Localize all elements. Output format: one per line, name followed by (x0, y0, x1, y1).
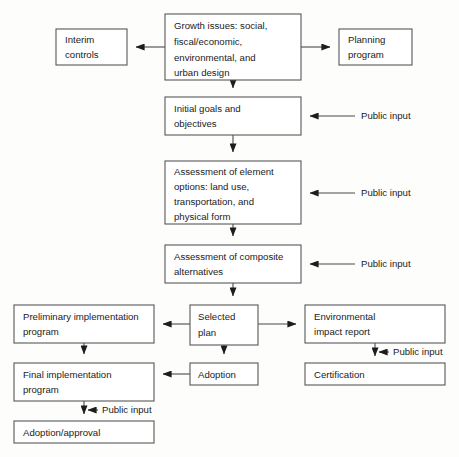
node-preliminary-implementation[interactable]: Preliminary implementation program (14, 305, 154, 343)
node-adoption-line-0: Adoption (198, 369, 236, 380)
node-planning-program-line-0: Planning (348, 34, 385, 45)
node-selected-plan-line-1: plan (198, 327, 216, 338)
node-adoption-approval-line-0: Adoption/approval (23, 427, 100, 438)
node-environmental-impact-report-line-1: impact report (314, 326, 370, 337)
node-assessment-elements[interactable]: Assessment of element options: land use,… (165, 161, 301, 224)
node-assessment-composite-line-0: Assessment of composite (174, 251, 283, 262)
node-planning-program[interactable]: Planning program (339, 29, 412, 65)
node-initial-goals-line-0: Initial goals and (174, 103, 241, 114)
node-assessment-elements-line-1: options: land use, (174, 181, 249, 192)
node-adoption[interactable]: Adoption (190, 363, 258, 385)
node-initial-goals-line-1: objectives (174, 118, 217, 129)
node-assessment-elements-line-2: transportation, and (174, 196, 254, 207)
annotation-public-input-elements: Public input (361, 187, 411, 198)
planning-process-flowchart: Growth issues: social, fiscal/economic, … (0, 0, 459, 457)
node-assessment-composite[interactable]: Assessment of composite alternatives (165, 245, 301, 283)
node-certification[interactable]: Certification (305, 363, 445, 385)
annotation-public-input-final: Public input (102, 404, 152, 415)
node-growth-issues-line-0: Growth issues: social, (174, 20, 267, 31)
node-growth-issues[interactable]: Growth issues: social, fiscal/economic, … (165, 14, 301, 80)
node-interim-controls[interactable]: Interim controls (56, 29, 127, 65)
annotation-public-input-composite: Public input (361, 258, 411, 269)
node-interim-controls-line-0: Interim (65, 34, 94, 45)
node-growth-issues-line-2: environmental, and (174, 52, 256, 63)
node-assessment-elements-line-3: physical form (174, 211, 231, 222)
node-planning-program-line-1: program (348, 49, 384, 60)
node-final-implementation-line-0: Final implementation (23, 369, 112, 380)
node-adoption-approval[interactable]: Adoption/approval (14, 421, 154, 443)
flowchart-page: Growth issues: social, fiscal/economic, … (0, 0, 459, 457)
node-initial-goals[interactable]: Initial goals and objectives (165, 97, 301, 135)
node-layer: Growth issues: social, fiscal/economic, … (14, 14, 445, 443)
node-selected-plan[interactable]: Selected plan (190, 305, 258, 345)
node-selected-plan-line-0: Selected (198, 311, 235, 322)
node-environmental-impact-report[interactable]: Environmental impact report (305, 305, 445, 343)
node-final-implementation[interactable]: Final implementation program (14, 363, 154, 401)
node-final-implementation-line-1: program (23, 384, 59, 395)
annotation-public-input-goals: Public input (361, 110, 411, 121)
node-environmental-impact-report-line-0: Environmental (314, 311, 375, 322)
node-preliminary-implementation-line-1: program (23, 326, 59, 337)
node-certification-line-0: Certification (314, 369, 365, 380)
node-assessment-composite-line-1: alternatives (174, 266, 223, 277)
node-growth-issues-line-1: fiscal/economic, (174, 36, 242, 47)
node-assessment-elements-line-0: Assessment of element (174, 166, 274, 177)
annotation-public-input-eir: Public input (393, 346, 443, 357)
node-preliminary-implementation-line-0: Preliminary implementation (23, 311, 139, 322)
node-interim-controls-line-1: controls (65, 49, 99, 60)
node-growth-issues-line-3: urban design (174, 67, 229, 78)
